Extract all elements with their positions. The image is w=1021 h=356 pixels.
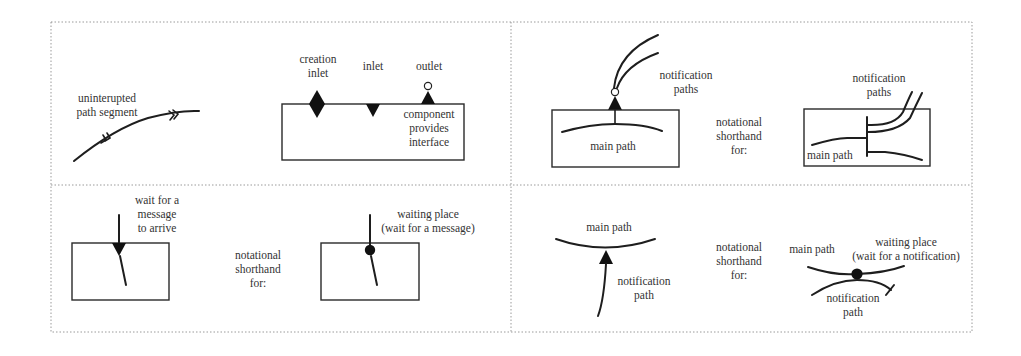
- waiting-place-dot-icon: [365, 245, 375, 255]
- outlet-triangle-icon: [608, 96, 622, 110]
- inlet-label: inlet: [363, 60, 384, 72]
- notification-paths-expanded-figure: notification paths main path: [552, 35, 713, 167]
- shorthand-label-line2: shorthand: [716, 130, 762, 142]
- component-interface-label-line2: provides: [409, 122, 449, 135]
- creation-inlet-label-line2: inlet: [308, 67, 329, 79]
- wait-message-label-line3: to arrive: [138, 222, 177, 234]
- outlet-circle-icon: [424, 82, 431, 89]
- path-segment-line: [74, 111, 199, 161]
- outlet-triangle-icon: [421, 91, 435, 104]
- waiting-place-message-figure: waiting place (wait for a message): [321, 208, 475, 300]
- notification-paths-label-line1: notification: [852, 72, 905, 84]
- outlet-circle-icon: [611, 88, 618, 95]
- notification-path-label-line1: notification: [826, 292, 879, 304]
- main-path-line: [812, 138, 867, 145]
- main-path-label: main path: [590, 140, 636, 153]
- panel-top-left: uninterupted path segment creation inlet…: [74, 53, 464, 161]
- component-figure: creation inlet inlet outlet component pr…: [282, 53, 464, 160]
- notification-paths-label-line1: notification: [659, 69, 712, 81]
- notification-path-line: [868, 93, 922, 132]
- wait-message-label-line2: message: [138, 208, 177, 221]
- main-path-line: [556, 239, 655, 248]
- waiting-place-label-line2: (wait for a notification): [852, 250, 960, 263]
- creation-inlet-diamond-icon: [309, 90, 325, 118]
- notification-triangle-icon: [599, 250, 613, 264]
- component-interface-label-line1: component: [403, 108, 455, 121]
- main-path-label: main path: [586, 221, 632, 234]
- path-segment-label-line1: uninterupted: [78, 92, 136, 105]
- notification-expanded-figure: main path notification path: [556, 221, 671, 316]
- panel-top-right: notification paths main path notational …: [552, 35, 930, 167]
- shorthand-label-line2: shorthand: [235, 263, 281, 275]
- component-interface-label-line3: interface: [409, 136, 449, 148]
- shorthand-label-line1: notational: [716, 116, 762, 128]
- waiting-place-label-line1: waiting place: [397, 208, 459, 221]
- shorthand-label-line3: for:: [250, 277, 267, 289]
- shorthand-label-line3: for:: [731, 144, 748, 156]
- panel-frame: [51, 22, 972, 332]
- shorthand-label-group: notational shorthand for:: [716, 116, 762, 156]
- notification-path-label-line2: path: [843, 306, 863, 319]
- inlet-triangle-icon: [366, 104, 380, 117]
- wait-message-label-line1: wait for a: [135, 194, 179, 206]
- main-path-line: [562, 124, 662, 132]
- panel-bottom-left: wait for a message to arrive notational …: [72, 194, 475, 300]
- path-segment-label-line2: path segment: [77, 106, 139, 119]
- waiting-place-label-line2: (wait for a message): [381, 222, 475, 235]
- continuation-path-line: [868, 152, 922, 160]
- notification-path-label-line1: notification: [617, 275, 670, 287]
- ucm-notation-diagram: uninterupted path segment creation inlet…: [0, 0, 1021, 356]
- waiting-place-notification-figure: main path waiting place (wait for a noti…: [789, 236, 960, 319]
- wait-message-figure: wait for a message to arrive: [72, 194, 179, 300]
- notification-paths-label-line2: paths: [674, 83, 699, 96]
- waiting-place-label-line1: waiting place: [875, 236, 937, 249]
- notification-path-line: [617, 53, 658, 88]
- notification-paths-label-line2: paths: [867, 86, 892, 99]
- panel-bottom-right: main path notification path notational s…: [556, 221, 960, 319]
- shorthand-label-line1: notational: [235, 249, 281, 261]
- outlet-label: outlet: [416, 60, 443, 72]
- creation-inlet-label-line1: creation: [299, 53, 336, 65]
- inlet-triangle-icon: [112, 243, 126, 256]
- main-path-label: main path: [789, 243, 835, 256]
- main-path-label: main path: [807, 149, 853, 162]
- path-segment-figure: uninterupted path segment: [74, 92, 199, 161]
- shorthand-label-line2: shorthand: [716, 255, 762, 267]
- notification-paths-shorthand-figure: notification paths main path: [804, 72, 930, 166]
- notification-path-label-line2: path: [634, 289, 654, 302]
- shorthand-label-group: notational shorthand for:: [716, 241, 762, 281]
- outgoing-path-line: [371, 256, 377, 285]
- waiting-place-dot-icon: [851, 268, 862, 279]
- shorthand-label-group: notational shorthand for:: [235, 249, 281, 289]
- outgoing-path-line: [120, 256, 126, 285]
- shorthand-label-line3: for:: [731, 269, 748, 281]
- notification-path-line: [598, 264, 606, 316]
- shorthand-label-line1: notational: [716, 241, 762, 253]
